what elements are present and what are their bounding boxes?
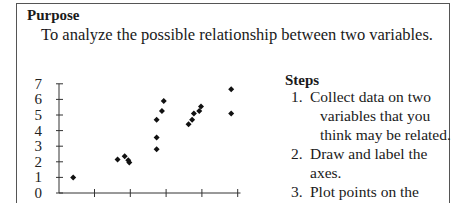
step-number xyxy=(291,201,310,203)
step-number xyxy=(291,125,310,144)
step-text: axes. xyxy=(310,163,450,182)
step-text: variables that you xyxy=(310,106,460,125)
step-item-continuation: variables that you xyxy=(291,106,460,125)
step-item: 2.Draw and label the xyxy=(291,144,460,163)
y-tick-label: 6 xyxy=(35,91,43,107)
data-point xyxy=(154,135,160,141)
data-point xyxy=(189,117,195,123)
step-number xyxy=(291,163,310,182)
data-point xyxy=(186,121,192,127)
step-item-continuation: think may be related. xyxy=(291,125,460,144)
data-point xyxy=(154,117,160,123)
step-number: 3. xyxy=(291,182,310,201)
step-item-continuation: graph. xyxy=(291,201,460,203)
data-point xyxy=(159,108,165,114)
data-point xyxy=(154,146,160,152)
y-tick-label: 2 xyxy=(35,154,43,170)
step-number: 2. xyxy=(291,144,310,163)
y-tick-label: 0 xyxy=(35,185,43,201)
y-tick-label: 3 xyxy=(35,138,43,154)
data-point xyxy=(161,98,167,104)
y-tick-label: 1 xyxy=(35,169,43,185)
data-point xyxy=(228,110,234,116)
data-point xyxy=(191,110,197,116)
y-tick-label: 4 xyxy=(35,123,43,139)
y-tick-label: 7 xyxy=(35,76,43,92)
step-text: think may be related. xyxy=(310,125,460,144)
step-text: graph. xyxy=(310,201,450,203)
x-axis xyxy=(59,189,241,197)
y-tick-label: 5 xyxy=(35,107,43,123)
y-axis: 01234567 xyxy=(35,76,64,201)
data-point xyxy=(115,156,121,162)
step-text: Plot points on the xyxy=(310,182,450,201)
step-item: 1.Collect data on two xyxy=(291,87,460,106)
data-point xyxy=(70,174,76,180)
data-point xyxy=(228,86,234,92)
steps-list: 1.Collect data on twovariables that yout… xyxy=(291,87,460,203)
data-points xyxy=(70,86,234,180)
step-item: 3.Plot points on the xyxy=(291,182,460,201)
step-text: Collect data on two xyxy=(310,87,450,106)
data-point xyxy=(122,153,128,159)
step-number xyxy=(291,106,310,125)
scatter-plot: 01234567 xyxy=(0,0,260,203)
step-text: Draw and label the xyxy=(310,144,450,163)
step-item-continuation: axes. xyxy=(291,163,460,182)
step-number: 1. xyxy=(291,87,310,106)
